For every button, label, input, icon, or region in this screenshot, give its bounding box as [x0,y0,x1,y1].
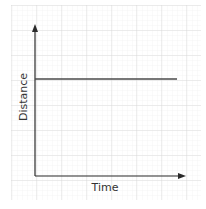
y-axis-label: Distance [17,73,30,121]
distance-time-graph: Time Distance [0,0,206,209]
grid-background [11,5,201,200]
x-axis-label: Time [91,181,119,194]
